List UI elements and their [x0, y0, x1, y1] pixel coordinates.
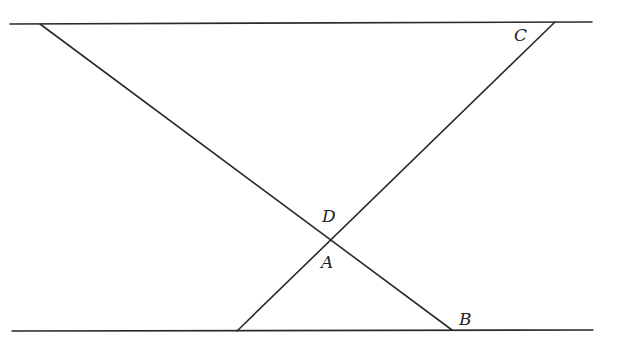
line-top-parallel [10, 22, 592, 24]
line-transversal-left-to-B [40, 24, 452, 330]
point-label-B: B [458, 309, 472, 329]
point-label-A: A [319, 252, 333, 272]
diagram-canvas: CDAB [0, 0, 622, 360]
line-transversal-C-to-bottom [237, 22, 555, 331]
point-label-C: C [514, 25, 527, 45]
point-label-D: D [321, 206, 336, 226]
geometry-diagram: CDAB [0, 0, 622, 360]
labels-layer: CDAB [319, 25, 527, 329]
line-bottom-parallel [12, 330, 593, 331]
lines-layer [10, 22, 593, 331]
